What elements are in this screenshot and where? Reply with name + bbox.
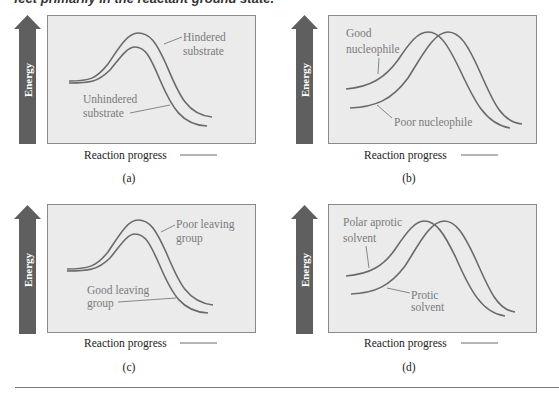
y-axis-label: Energy xyxy=(299,252,311,287)
panel-letter: (c) xyxy=(123,361,136,374)
panel-c: Energy Poor leaving group Good leaving g… xyxy=(14,205,256,375)
panel-letter: (a) xyxy=(123,172,136,185)
curve-label: Polar aprotic xyxy=(343,216,402,229)
panel-d: Energy Polar aprotic solvent Protic solv… xyxy=(291,205,537,375)
x-axis-label: Reaction progress xyxy=(364,337,447,350)
panel-b: Energy Good nucleophile Poor nucleophile… xyxy=(291,15,537,185)
energy-arrow-icon: Energy xyxy=(291,205,318,334)
curve-label: group xyxy=(176,232,203,245)
curve-label: group xyxy=(87,297,114,310)
energy-arrow-icon: Energy xyxy=(14,15,41,144)
y-axis-label: Energy xyxy=(299,62,311,97)
energy-arrow-icon: Energy xyxy=(291,15,318,144)
energy-arrow-icon: Energy xyxy=(14,205,41,334)
curve-label: Protic xyxy=(411,289,438,301)
panel-a: Energy Hindered substrate Unhindered sub… xyxy=(14,15,256,185)
curve-label: Unhindered xyxy=(83,93,138,105)
curve-label: substrate xyxy=(183,45,224,57)
panel-letter: (d) xyxy=(402,361,416,374)
curve-label: Good xyxy=(346,27,372,39)
curve-label: Hindered xyxy=(183,31,226,43)
panel-letter: (b) xyxy=(402,172,416,185)
curve-label: Poor nucleophile xyxy=(394,116,472,129)
x-axis-label: Reaction progress xyxy=(364,149,447,162)
x-axis-label: Reaction progress xyxy=(84,149,167,162)
bottom-rule xyxy=(15,387,559,388)
curve-label: solvent xyxy=(411,301,445,313)
y-axis-label: Energy xyxy=(22,252,34,287)
curve-label: solvent xyxy=(343,232,377,244)
y-axis-label: Energy xyxy=(22,62,34,97)
curve-label: Good leaving xyxy=(87,284,150,297)
curve-label: Poor leaving xyxy=(176,218,235,231)
curve-label: substrate xyxy=(83,107,124,119)
curve-label: nucleophile xyxy=(346,43,400,56)
figure: Energy Hindered substrate Unhindered sub… xyxy=(0,0,559,394)
x-axis-label: Reaction progress xyxy=(84,337,167,350)
